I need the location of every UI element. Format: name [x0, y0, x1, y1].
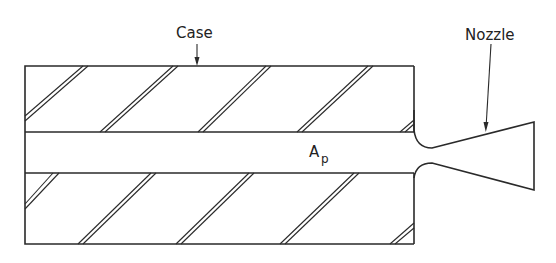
case-label: Case	[176, 24, 213, 42]
port-area-subscript: p	[321, 152, 329, 166]
nozzle-label: Nozzle	[465, 26, 515, 44]
rocket-motor-diagram: Case Nozzle A p	[0, 0, 556, 263]
lower-grain-hatching	[25, 173, 414, 244]
upper-grain-hatching	[25, 66, 414, 132]
grain-bore	[25, 132, 414, 173]
motor-case	[25, 66, 414, 244]
nozzle-leader-arrow	[484, 44, 492, 132]
case-leader-arrow	[195, 44, 200, 66]
nozzle	[414, 110, 534, 190]
port-area-label: A	[309, 143, 320, 161]
